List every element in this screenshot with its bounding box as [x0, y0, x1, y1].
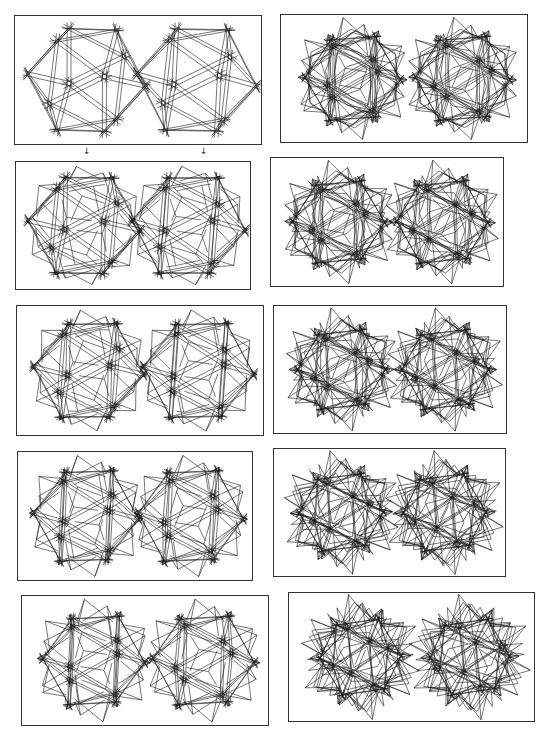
wireframe-lines: [30, 456, 143, 577]
right-eye-view: [128, 166, 249, 284]
left-eye-view: [287, 308, 397, 431]
wireframe-lines: [287, 308, 397, 431]
stereo-panel-left-5: [21, 595, 269, 726]
wireframe-lines: [24, 167, 145, 285]
wireframe-lines: [132, 22, 261, 138]
wireframe-lines: [386, 451, 503, 575]
wireframe-lines: [409, 17, 517, 139]
right-eye-view: [409, 594, 530, 719]
wireframe-lines: [388, 308, 502, 431]
polyhedron-stereo-pair: [271, 158, 503, 286]
stereo-panel-left-1: [14, 15, 262, 145]
polyhedron-stereo-pair: [281, 15, 527, 142]
stereo-panel-left-2: [15, 161, 251, 290]
wireframe-lines: [409, 594, 530, 719]
polyhedron-stereo-pair: [16, 162, 250, 289]
stereo-figure: ↓↓: [0, 0, 550, 737]
left-eye-view: [37, 599, 150, 722]
wireframe-lines: [298, 18, 407, 140]
down-arrow-icon: ↓: [83, 147, 91, 156]
left-eye-view: [285, 160, 392, 283]
polyhedron-stereo-pair: [18, 452, 252, 580]
wireframe-lines: [285, 160, 392, 283]
wireframe-lines: [128, 166, 249, 284]
wireframe-lines: [284, 451, 398, 574]
right-eye-view: [148, 599, 260, 722]
left-eye-view: [302, 595, 420, 720]
left-eye-view: [30, 310, 148, 431]
right-eye-view: [388, 308, 502, 431]
stereo-panel-right-2: [270, 157, 504, 287]
left-eye-view: [30, 456, 143, 577]
wireframe-lines: [134, 455, 247, 576]
right-eye-view: [386, 451, 503, 575]
polyhedron-stereo-pair: [289, 593, 534, 721]
polyhedron-stereo-pair: [274, 449, 505, 576]
right-eye-view: [386, 160, 498, 284]
wireframe-lines: [23, 22, 151, 139]
wireframe-lines: [302, 595, 420, 720]
right-eye-view: [132, 22, 261, 138]
left-eye-view: [24, 167, 145, 285]
wireframe-lines: [386, 160, 498, 284]
polyhedron-stereo-pair: [17, 306, 263, 435]
stereo-panel-left-4: [17, 451, 253, 581]
wireframe-lines: [148, 599, 260, 722]
stereo-panel-left-3: [16, 305, 264, 436]
right-eye-view: [134, 455, 247, 576]
stereo-panel-right-3: [273, 305, 507, 434]
wireframe-lines: [30, 310, 148, 431]
left-eye-view: [298, 18, 407, 140]
polyhedron-stereo-pair: [274, 306, 506, 433]
stereo-panel-right-4: [273, 448, 506, 577]
wireframe-lines: [140, 310, 258, 431]
stereo-panel-right-5: [288, 592, 535, 722]
right-eye-view: [409, 17, 517, 139]
stereo-panel-right-1: [280, 14, 528, 143]
polyhedron-stereo-pair: [15, 16, 261, 144]
polyhedron-stereo-pair: [22, 596, 268, 725]
right-eye-view: [140, 310, 258, 431]
left-eye-view: [23, 22, 151, 139]
down-arrow-icon: ↓: [200, 147, 208, 156]
left-eye-view: [284, 451, 398, 574]
wireframe-lines: [37, 599, 150, 722]
